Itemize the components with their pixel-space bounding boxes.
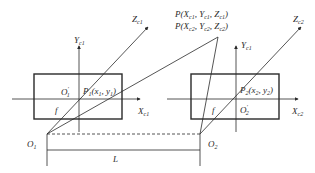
- left-y-axis-label: Yc1: [74, 35, 85, 46]
- left-camera: [12, 27, 218, 134]
- stereo-vision-diagram: P(Xc1, Yc1, Zc1) P(Xc2, Yc2, Zc2) Yc1 Zc…: [0, 0, 315, 173]
- left-focal-label: f: [55, 105, 59, 115]
- right-focal-label: f: [212, 105, 216, 115]
- left-z-axis-label: Zc1: [132, 14, 143, 25]
- baseline: [47, 134, 200, 166]
- right-camera: [167, 27, 301, 134]
- svg-text:P(Xc1, Yc1, Zc1): P(Xc1, Yc1, Zc1): [174, 9, 228, 20]
- right-x-axis-label: Xc2: [291, 106, 303, 117]
- right-y-axis-label: Yc1: [241, 40, 252, 51]
- left-z-axis: [47, 27, 148, 134]
- svg-text:P(Xc2, Yc2, Zc2): P(Xc2, Yc2, Zc2): [174, 21, 228, 32]
- right-image-point-label: P2(x2, y2): [239, 85, 273, 96]
- left-image-point-label: P1(x1, y1): [82, 86, 116, 97]
- right-z-axis: [200, 27, 301, 134]
- left-x-axis-label: Xc1: [137, 106, 149, 117]
- baseline-length-label: L: [112, 154, 118, 164]
- world-point-label: P(Xc1, Yc1, Zc1) P(Xc2, Yc2, Zc2): [174, 9, 228, 32]
- right-z-axis-label: Zc2: [293, 14, 304, 25]
- right-optical-center-label: O2: [208, 139, 218, 150]
- right-principal-point-label: O′2: [240, 104, 249, 116]
- left-image-plane: [34, 74, 122, 119]
- left-optical-center-label: O1: [27, 139, 37, 150]
- left-principal-point-label: O′1: [61, 86, 70, 98]
